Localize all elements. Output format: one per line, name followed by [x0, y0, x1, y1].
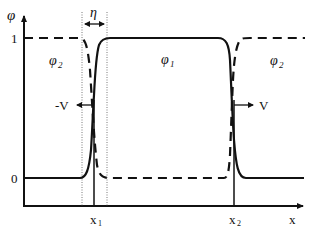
y-tick-0-label: 0 [11, 171, 18, 186]
phi2-left-label: φ 2 [49, 53, 63, 70]
y-axis-label: φ [7, 7, 15, 23]
svg-text:φ: φ [161, 52, 169, 67]
svg-text:1: 1 [98, 219, 102, 228]
svg-text:x: x [90, 212, 97, 227]
eta-label: η [90, 5, 97, 20]
phi2-right-label: φ 2 [270, 53, 284, 70]
x1-label: x 1 [90, 212, 102, 228]
svg-text:φ: φ [270, 53, 278, 68]
svg-text:2: 2 [279, 60, 284, 70]
svg-text:1: 1 [170, 59, 175, 69]
x-axis-label: x [289, 212, 296, 227]
right-velocity-label: V [259, 98, 269, 113]
svg-text:x: x [229, 212, 236, 227]
svg-text:2: 2 [237, 219, 241, 228]
phase-field-diagram: φ 1 0 η φ 2 φ 1 φ 2 -V V x 1 x 2 x [0, 0, 312, 233]
y-tick-1-label: 1 [11, 31, 18, 46]
x2-label: x 2 [229, 212, 241, 228]
svg-text:φ: φ [49, 53, 57, 68]
left-velocity-label: -V [55, 98, 69, 113]
svg-text:2: 2 [58, 60, 63, 70]
phi1-label: φ 1 [161, 52, 175, 69]
